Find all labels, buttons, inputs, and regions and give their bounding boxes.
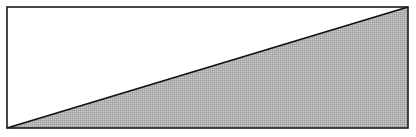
split-rectangle-diagram	[0, 0, 416, 137]
diagram-canvas	[0, 0, 416, 137]
